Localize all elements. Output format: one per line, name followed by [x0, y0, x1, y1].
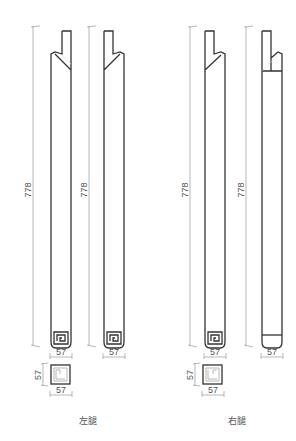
left-leg-elevation-a: 778 57 [23, 26, 72, 359]
section-height-dimension: 57 [185, 363, 200, 386]
height-dimension: 778 [236, 26, 253, 347]
section-height-label: 57 [33, 370, 43, 380]
right-leg-elevation-a: 778 57 [180, 26, 226, 359]
left-leg-group: 778 57 778 [23, 26, 125, 426]
width-dimension: 57 [204, 347, 226, 359]
section-height-dimension: 57 [33, 363, 48, 386]
right-leg-caption: 右腿 [228, 415, 246, 426]
section-width-label: 57 [56, 385, 66, 395]
section-height-label: 57 [185, 370, 195, 380]
width-dimension: 57 [103, 347, 125, 359]
spiral-scroll-icon [107, 332, 121, 344]
height-label: 778 [236, 182, 246, 197]
width-dimension: 57 [261, 347, 283, 359]
height-dimension: 778 [79, 26, 96, 347]
height-label: 778 [23, 182, 33, 197]
height-label: 778 [180, 182, 190, 197]
height-label: 778 [79, 182, 89, 197]
right-leg-group: 778 57 778 [180, 26, 283, 426]
right-leg-elevation-b: 778 57 [236, 26, 283, 359]
left-leg-elevation-b: 778 57 [79, 26, 125, 359]
left-leg-section: 57 57 [33, 363, 72, 397]
width-label: 57 [109, 347, 119, 357]
width-label: 57 [210, 347, 220, 357]
height-dimension: 778 [180, 26, 197, 347]
spiral-scroll-icon [54, 332, 68, 344]
width-dimension: 57 [50, 347, 72, 359]
section-width-label: 57 [208, 385, 218, 395]
width-label: 57 [267, 347, 277, 357]
section-width-dimension: 57 [202, 385, 224, 397]
height-dimension: 778 [23, 26, 40, 347]
width-label: 57 [56, 347, 66, 357]
right-leg-section: 57 57 [185, 363, 224, 397]
section-width-dimension: 57 [50, 385, 72, 397]
spiral-scroll-icon [208, 332, 222, 344]
leg-drawing-canvas: 778 57 778 [0, 0, 296, 441]
left-leg-caption: 左腿 [79, 415, 97, 426]
